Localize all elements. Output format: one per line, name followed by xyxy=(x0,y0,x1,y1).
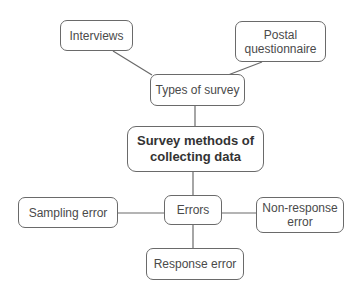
node-label: Postal questionnaire xyxy=(244,28,316,56)
node-sampling-error: Sampling error xyxy=(18,197,118,228)
node-central-topic: Survey methods of collecting data xyxy=(127,126,264,172)
connector-interviews-types xyxy=(113,51,152,75)
node-non-response-error: Non-response error xyxy=(256,197,344,233)
node-label: Interviews xyxy=(69,29,123,43)
node-errors: Errors xyxy=(164,195,222,225)
node-postal-questionnaire: Postal questionnaire xyxy=(235,21,326,62)
node-types-of-survey: Types of survey xyxy=(150,74,245,106)
node-label: Types of survey xyxy=(155,83,239,97)
node-label: Non-response error xyxy=(262,201,337,229)
node-label: Errors xyxy=(177,203,210,217)
node-response-error: Response error xyxy=(146,248,244,280)
node-label: Response error xyxy=(154,257,237,271)
node-interviews: Interviews xyxy=(60,20,133,51)
node-label: Sampling error xyxy=(29,206,108,220)
node-label: Survey methods of collecting data xyxy=(137,133,254,165)
